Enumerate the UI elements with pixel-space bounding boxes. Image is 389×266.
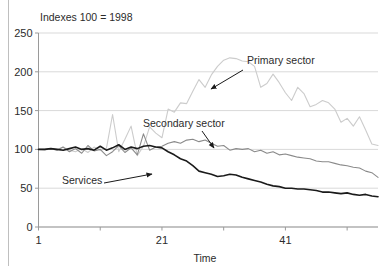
y-axis-tick-label: 100	[14, 143, 32, 155]
y-axis-tick-label: 50	[20, 182, 32, 194]
y-axis-tick-label: 200	[14, 66, 32, 78]
y-axis-tick-label: 150	[14, 105, 32, 117]
annotation-label-primary-sector: Primary sector	[247, 54, 315, 66]
x-axis-tick-label: 1	[35, 234, 41, 246]
x-axis-tick-label: 41	[279, 234, 291, 246]
chart-figure: 050100150200250 12141 Indexes 100 = 1998…	[0, 0, 389, 266]
annotation-label-services: Services	[62, 174, 102, 186]
y-axis-tick-label: 250	[14, 27, 32, 39]
line-chart: 050100150200250 12141 Indexes 100 = 1998…	[0, 0, 389, 266]
x-axis-tick-label: 21	[156, 234, 168, 246]
annotation-label-secondary-sector: Secondary sector	[143, 117, 225, 129]
x-axis-title: Time	[194, 252, 217, 264]
chart-title: Indexes 100 = 1998	[40, 11, 133, 23]
chart-background	[0, 0, 389, 266]
y-axis-tick-label: 0	[26, 221, 32, 233]
